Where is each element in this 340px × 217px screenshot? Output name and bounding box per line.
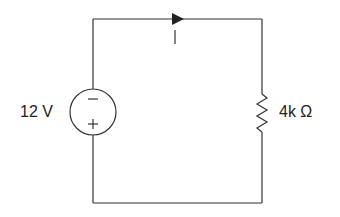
source-label: 12 V [20,104,53,120]
circuit-diagram: 12 V 4k Ω [0,0,340,217]
current-arrow-icon [172,13,184,25]
resistor-label: 4k Ω [279,104,312,120]
resistor-symbol [257,94,267,132]
